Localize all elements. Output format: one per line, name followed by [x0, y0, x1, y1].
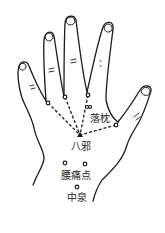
point-baxie-index-thumb	[114, 123, 118, 127]
point-yaotongdian-1	[63, 161, 67, 165]
fingernails	[19, 17, 150, 95]
point-zhongquan	[75, 185, 79, 189]
label-zhongquan: 中泉	[67, 192, 87, 203]
label-yaotongdian: 腰痛点	[61, 170, 91, 181]
point-yaotongdian-2	[83, 162, 87, 166]
point-baxie-middle-index	[86, 93, 90, 97]
label-baxie: 八邪	[71, 141, 91, 152]
point-baxie-pinky-ring	[46, 101, 50, 105]
label-luozhen: 落枕	[90, 113, 110, 124]
point-baxie-ring-middle	[63, 95, 67, 99]
point-luozhen-2	[89, 106, 92, 109]
